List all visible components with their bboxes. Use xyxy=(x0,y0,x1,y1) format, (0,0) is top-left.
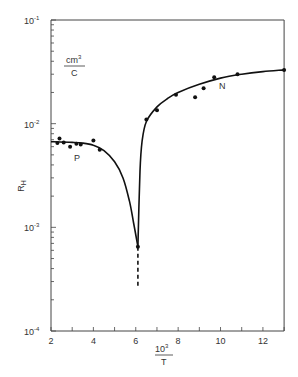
data-point xyxy=(236,72,240,76)
xtick-label-2: 2 xyxy=(48,336,53,346)
data-point xyxy=(98,148,102,152)
ytick-label-1e-1: 10-1 xyxy=(24,15,40,26)
x-axis-denominator: T xyxy=(161,357,167,367)
data-point xyxy=(91,138,95,142)
data-point xyxy=(212,75,216,79)
data-point xyxy=(79,143,83,147)
p-type-label: P xyxy=(74,153,80,163)
y-axis-label: RH xyxy=(16,180,27,192)
data-point xyxy=(155,108,159,112)
data-points xyxy=(55,68,286,249)
data-point xyxy=(144,117,148,121)
data-point xyxy=(193,95,197,99)
xtick-label-6: 6 xyxy=(133,336,138,346)
p-branch-curve xyxy=(51,142,138,247)
axis-labels: 10-1 10-2 10-3 10-4 2 4 6 8 10 12 cm3 C … xyxy=(16,15,268,367)
y-unit-numerator: cm3 xyxy=(66,54,82,65)
ytick-label-1e-4: 10-4 xyxy=(24,326,40,337)
ytick-label-1e-2: 10-2 xyxy=(24,119,40,130)
xtick-label-8: 8 xyxy=(176,336,181,346)
n-branch-curve xyxy=(138,70,284,247)
x-axis-numerator: 103 xyxy=(155,343,169,354)
data-point xyxy=(74,142,78,146)
data-point xyxy=(68,145,72,149)
xtick-label-10: 10 xyxy=(215,336,225,346)
hall-coefficient-chart: 10-1 10-2 10-3 10-4 2 4 6 8 10 12 cm3 C … xyxy=(0,0,298,377)
data-point xyxy=(202,86,206,90)
data-point xyxy=(58,137,62,141)
axes xyxy=(51,20,284,331)
data-point xyxy=(174,93,178,97)
y-unit-denominator: C xyxy=(71,68,78,78)
data-point xyxy=(136,245,140,249)
data-point xyxy=(55,141,59,145)
data-point xyxy=(282,68,286,72)
data-point xyxy=(62,140,66,144)
xtick-label-12: 12 xyxy=(258,336,268,346)
n-type-label: N xyxy=(219,81,226,91)
ytick-label-1e-3: 10-3 xyxy=(24,222,40,233)
xtick-label-4: 4 xyxy=(91,336,96,346)
fit-curve xyxy=(51,70,284,288)
